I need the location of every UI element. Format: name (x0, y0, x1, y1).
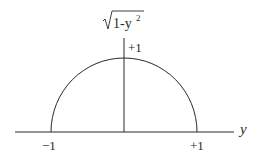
horizontal-axis-label: y (238, 121, 247, 137)
top-tick-label: +1 (128, 40, 142, 55)
semicircle-diagram: 1-y 2 +1 −1 +1 y (0, 0, 261, 159)
radicand-text: 1-y (113, 16, 132, 31)
left-tick-label: −1 (42, 138, 56, 153)
exponent-text: 2 (136, 13, 141, 23)
function-label: 1-y 2 (103, 11, 144, 31)
right-tick-label: +1 (190, 138, 204, 153)
